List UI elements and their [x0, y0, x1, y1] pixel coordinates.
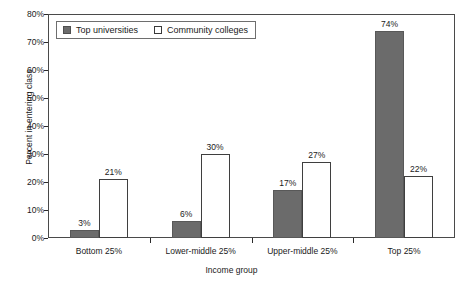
bar-value-label: 3% — [78, 218, 90, 228]
x-category-label: Bottom 25% — [76, 246, 122, 256]
x-category-label: Top 25% — [388, 246, 421, 256]
x-tick-mark — [252, 238, 253, 243]
x-axis-title: Income group — [0, 265, 463, 275]
x-category-label: Upper-middle 25% — [267, 246, 337, 256]
bar-value-label: 30% — [207, 142, 224, 152]
y-tick-mark — [44, 14, 48, 15]
y-tick-mark — [44, 154, 48, 155]
y-tick-mark — [44, 210, 48, 211]
bar — [99, 179, 128, 238]
bar — [302, 162, 331, 238]
bar — [201, 154, 230, 238]
bar-value-label: 21% — [105, 167, 122, 177]
bar — [172, 221, 201, 238]
y-tick-mark — [44, 238, 48, 239]
bar — [70, 230, 99, 238]
bar-value-label: 22% — [410, 164, 427, 174]
bar — [375, 31, 404, 238]
bar — [273, 190, 302, 238]
y-tick-mark — [44, 70, 48, 71]
bar-value-label: 6% — [180, 209, 192, 219]
y-tick-mark — [44, 182, 48, 183]
bars-layer: 3%21%6%30%17%27%74%22% — [0, 0, 463, 285]
bar-value-label: 17% — [279, 178, 296, 188]
bar-chart-figure: Percent in entering class 0%10%20%30%40%… — [0, 0, 463, 285]
x-tick-mark — [353, 238, 354, 243]
y-tick-mark — [44, 42, 48, 43]
bar-value-label: 27% — [308, 150, 325, 160]
y-tick-mark — [44, 126, 48, 127]
x-tick-mark — [150, 238, 151, 243]
y-tick-mark — [44, 98, 48, 99]
x-category-label: Lower-middle 25% — [165, 246, 235, 256]
bar — [404, 176, 433, 238]
bar-value-label: 74% — [381, 19, 398, 29]
